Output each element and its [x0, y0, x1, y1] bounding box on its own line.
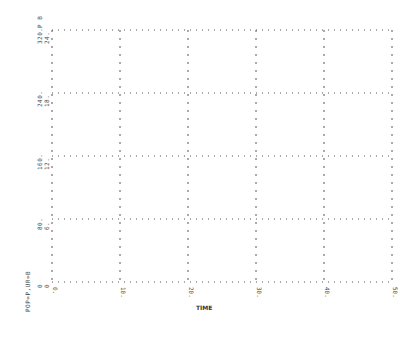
y-tick-pop-80: 80. — [36, 218, 43, 230]
y-tick-ur-18: 18. — [43, 95, 50, 107]
x-axis-label: TIME — [196, 304, 212, 311]
chart-plot-area — [0, 0, 417, 338]
y-tick-pop-160: 160. — [36, 154, 43, 170]
legend-markers: P B — [36, 16, 43, 28]
y-axis-label: POP=P,UR=B — [24, 271, 31, 312]
x-tick-40: 40. — [324, 287, 331, 298]
y-tick-pop-320: 320. — [36, 28, 43, 44]
x-tick-20: 20. — [188, 287, 195, 298]
y-tick-ur-0: 0 — [43, 284, 50, 288]
x-tick-10: 10. — [120, 287, 127, 298]
grid-lines — [52, 30, 392, 282]
x-tick-0: 0. — [52, 287, 59, 294]
y-tick-pop-240: 240. — [36, 91, 43, 107]
y-tick-ur-6: 6. — [43, 222, 50, 230]
y-tick-ur-12: 12. — [43, 158, 50, 170]
y-tick-pop-0: 0 — [36, 284, 43, 288]
y-tick-ur-24: 24. — [43, 32, 50, 44]
x-tick-30: 30. — [256, 287, 263, 298]
x-tick-50: 50. — [392, 287, 399, 298]
